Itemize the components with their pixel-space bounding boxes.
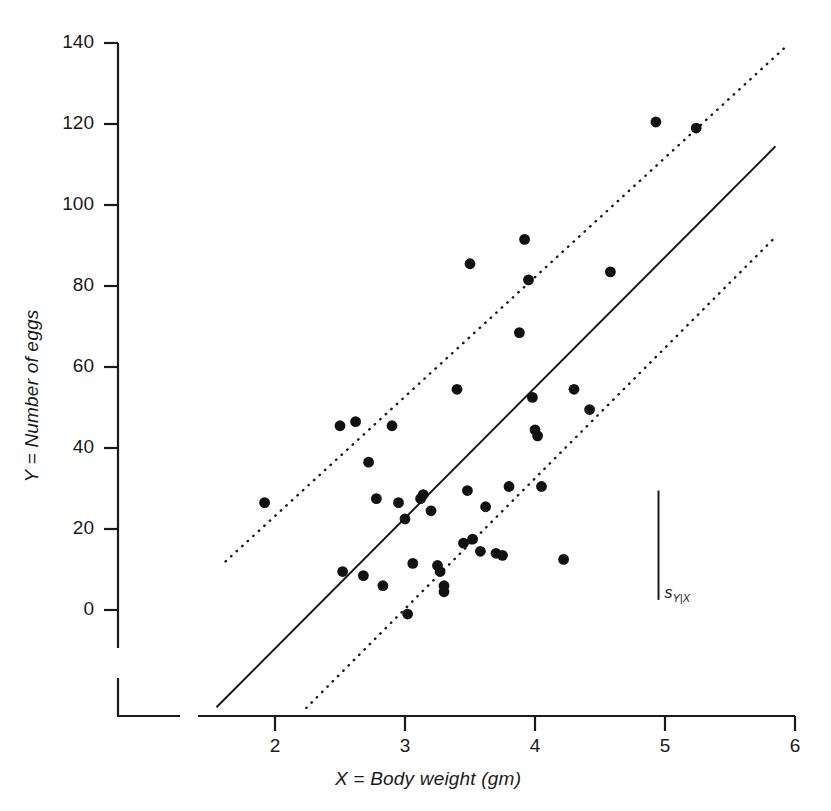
data-point <box>651 117 662 128</box>
data-point <box>358 570 369 581</box>
data-point <box>402 609 413 620</box>
data-point <box>519 234 530 245</box>
data-point <box>480 501 491 512</box>
scatter-plot-figure <box>0 0 831 811</box>
data-point <box>569 384 580 395</box>
data-point <box>335 420 346 431</box>
data-point <box>387 420 398 431</box>
data-point <box>465 258 476 269</box>
y-axis-tick-label: 100 <box>20 193 94 215</box>
data-point <box>467 534 478 545</box>
data-point <box>378 580 389 591</box>
axes-layer <box>104 43 795 731</box>
y-axis-tick-label: 40 <box>20 436 94 458</box>
fit-lines-layer <box>217 48 785 708</box>
data-point <box>337 566 348 577</box>
y-axis-tick-label: 80 <box>20 274 94 296</box>
data-point <box>584 404 595 415</box>
data-point <box>407 558 418 569</box>
data-point <box>426 505 437 516</box>
data-point <box>558 554 569 565</box>
data-point <box>532 430 543 441</box>
x-axis-tick-label: 3 <box>375 735 435 757</box>
y-axis-tick-label: 0 <box>20 598 94 620</box>
data-points-layer <box>259 117 701 620</box>
data-point <box>452 384 463 395</box>
data-point <box>691 123 702 134</box>
data-point <box>418 489 429 500</box>
y-axis-tick-label: 20 <box>20 517 94 539</box>
x-axis-tick-label: 4 <box>505 735 565 757</box>
data-point <box>393 497 404 508</box>
y-axis-tick-label: 120 <box>20 112 94 134</box>
data-point <box>497 550 508 561</box>
data-point <box>259 497 270 508</box>
y-axis-tick-label: 60 <box>20 355 94 377</box>
data-point <box>363 457 374 468</box>
data-point <box>400 513 411 524</box>
data-point <box>462 485 473 496</box>
y-axis-tick-label: 140 <box>20 31 94 53</box>
data-point <box>435 566 446 577</box>
data-point <box>371 493 382 504</box>
data-point <box>475 546 486 557</box>
x-axis-tick-label: 2 <box>245 735 305 757</box>
data-point <box>514 327 525 338</box>
data-point <box>523 275 534 286</box>
regression-line <box>217 146 776 707</box>
band-line-lower <box>306 238 774 708</box>
data-point <box>527 392 538 403</box>
data-point <box>439 586 450 597</box>
x-axis-tick-label: 5 <box>635 735 695 757</box>
data-point <box>536 481 547 492</box>
x-axis-tick-label: 6 <box>765 735 825 757</box>
data-point <box>504 481 515 492</box>
data-point <box>350 416 361 427</box>
data-point <box>605 266 616 277</box>
axis-break-corner <box>118 678 180 716</box>
